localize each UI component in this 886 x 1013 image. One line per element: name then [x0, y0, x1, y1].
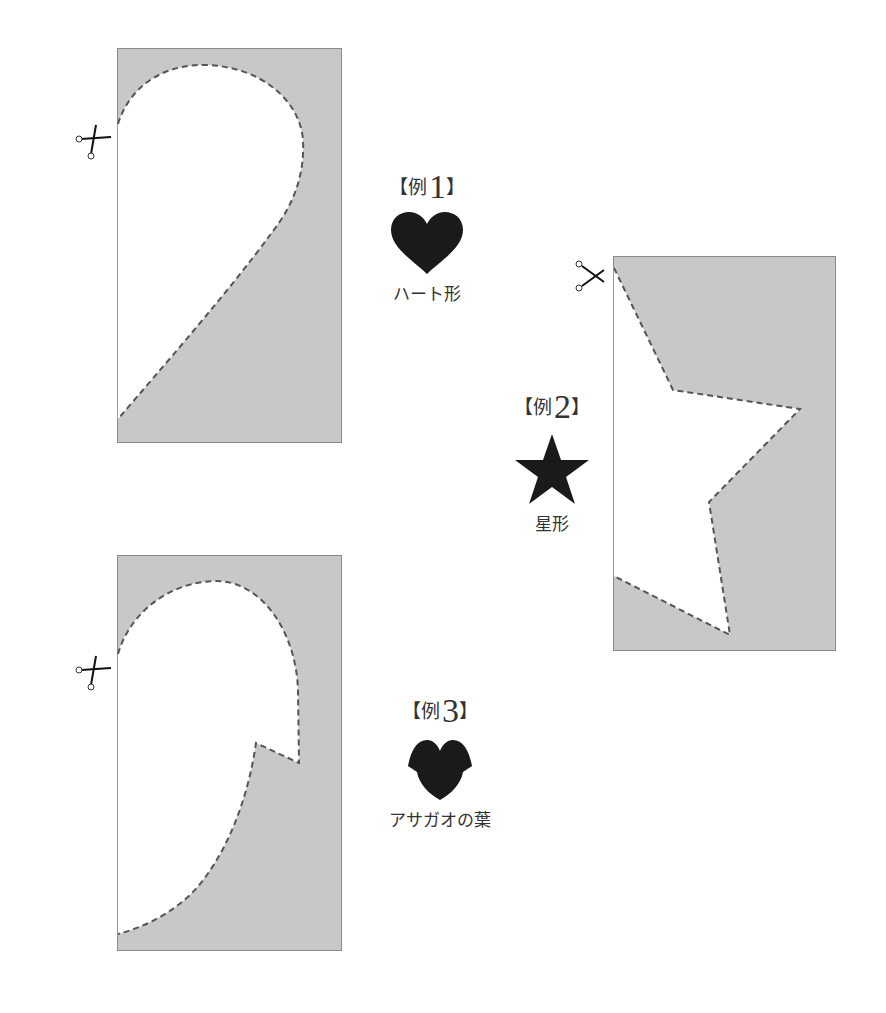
heart-template-panel	[60, 40, 360, 450]
example-2-label: 【例2】 星形	[497, 388, 607, 535]
example-1-label: 【例1】 ハート形	[372, 168, 482, 305]
morning-glory-leaf-icon	[405, 736, 475, 802]
leaf-cutting-diagram	[60, 540, 360, 960]
scissors-icon	[576, 261, 604, 291]
leaf-template-panel	[60, 540, 360, 960]
scissors-icon	[76, 125, 111, 159]
example-1-title: 【例1】	[372, 168, 482, 206]
scissors-icon	[76, 656, 111, 690]
example-2-title: 【例2】	[497, 388, 607, 426]
shape-name-star: 星形	[497, 510, 607, 535]
heart-icon	[387, 210, 467, 276]
example-3-label: 【例3】 アサガオの葉	[365, 692, 515, 831]
star-icon	[514, 432, 590, 506]
example-3-title: 【例3】	[365, 692, 515, 730]
heart-cutting-diagram	[60, 40, 360, 450]
shape-name-heart: ハート形	[372, 280, 482, 305]
shape-name-leaf: アサガオの葉	[365, 806, 515, 831]
